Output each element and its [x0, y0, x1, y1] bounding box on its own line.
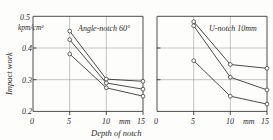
ytick-label-0.2: 0.2 — [22, 107, 32, 116]
panel-title-right: U-notch 10mm — [209, 24, 257, 33]
series-marker-left-middle-x15 — [141, 87, 145, 91]
series-marker-right-lower-x15 — [265, 102, 269, 106]
ytick-label-0.3: 0.3 — [22, 76, 32, 85]
chart-figure-root: Angle-notch 60° 0.5 0.4 0.3 0.2 kpm/cm² … — [0, 0, 273, 140]
series-marker-left-middle-x5 — [68, 38, 72, 42]
panel-right-u-notch: U-notch 10mm — [157, 16, 269, 115]
series-marker-left-lower-x5 — [68, 52, 72, 56]
series-marker-right-upper-x10 — [228, 63, 232, 67]
series-marker-left-middle-x10 — [104, 81, 108, 85]
x-unit-label-left: mm — [119, 117, 131, 126]
xtick-label-right-15: 15 — [261, 117, 269, 126]
xtick-label-left-0: 0 — [30, 117, 34, 126]
panel-title-left: Angle-notch 60° — [77, 24, 131, 33]
series-marker-left-upper-x15 — [141, 79, 145, 83]
chart-canvas: Angle-notch 60° 0.5 0.4 0.3 0.2 kpm/cm² … — [0, 0, 273, 140]
panel-left-angle-notch: Angle-notch 60° — [33, 16, 145, 115]
impact-work-figure: Angle-notch 60° 0.5 0.4 0.3 0.2 kpm/cm² … — [0, 0, 273, 140]
series-marker-left-lower-x10 — [104, 86, 108, 90]
series-marker-left-upper-x10 — [104, 77, 108, 81]
y-axis-title: Impact work — [4, 52, 14, 96]
series-marker-right-lower-x10 — [228, 94, 232, 98]
x-unit-label-right: mm — [243, 117, 255, 126]
series-marker-right-upper-x5 — [192, 20, 196, 24]
series-marker-right-lower-x5 — [192, 59, 196, 63]
xtick-label-right-5: 5 — [191, 117, 195, 126]
y-axis-unit-label: kpm/cm² — [18, 23, 44, 32]
series-marker-right-upper-x15 — [265, 66, 269, 70]
series-marker-left-lower-x15 — [141, 94, 145, 98]
ytick-label-0.5: 0.5 — [20, 13, 30, 22]
series-marker-right-middle-x15 — [265, 88, 269, 92]
xtick-label-left-5: 5 — [67, 117, 71, 126]
series-marker-right-middle-x5 — [192, 24, 196, 28]
ytick-label-0.4: 0.4 — [22, 44, 32, 53]
xtick-label-left-10: 10 — [102, 117, 110, 126]
xtick-label-right-10: 10 — [226, 117, 234, 126]
x-axis-title: Depth of notch — [90, 128, 142, 138]
xtick-label-right-0: 0 — [154, 117, 158, 126]
xtick-label-left-15: 15 — [137, 117, 145, 126]
series-marker-right-middle-x10 — [228, 75, 232, 79]
series-marker-left-upper-x5 — [68, 29, 72, 33]
